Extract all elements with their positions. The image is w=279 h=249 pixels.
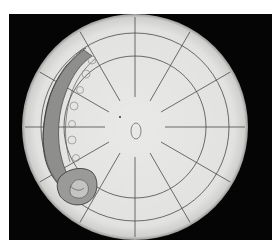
experiment-image [0,0,279,249]
shadowgraph-figure [0,0,279,249]
reference-dot [119,116,121,118]
